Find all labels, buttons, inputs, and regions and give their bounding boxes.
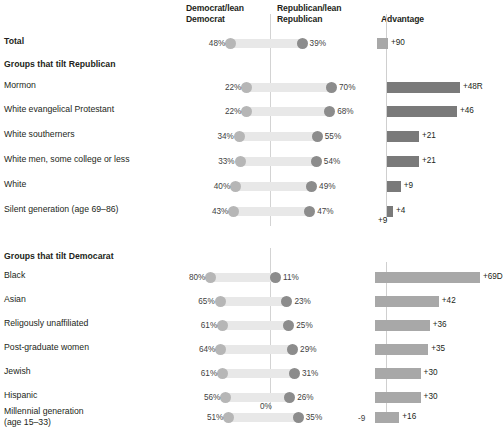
advantage-value-label: +48R xyxy=(463,82,483,91)
value-label-republican: 25% xyxy=(296,321,312,330)
dumbbell-track xyxy=(222,321,286,330)
dumbbell-dot-republican xyxy=(289,368,300,379)
value-label-democrat: 80% xyxy=(179,273,205,282)
advantage-value-label: +46 xyxy=(460,106,474,115)
dumbbell-zero-axis-label: 0% xyxy=(260,402,272,411)
dumbbell-track xyxy=(235,182,309,191)
dumbbell-dot-republican xyxy=(306,181,317,192)
advantage-bar xyxy=(375,296,439,307)
value-label-republican: 54% xyxy=(324,157,340,166)
value-label-democrat: 22% xyxy=(215,107,241,116)
value-label-democrat: 65% xyxy=(189,297,215,306)
dumbbell-track xyxy=(233,207,307,216)
advantage-bar xyxy=(375,392,421,403)
advantage-bar xyxy=(375,344,428,355)
dumbbell-row: 43%47% xyxy=(0,206,477,217)
dumbbell-dot-democrat xyxy=(234,131,245,142)
advantage-bar xyxy=(375,412,399,423)
value-label-republican: 23% xyxy=(294,297,310,306)
column-header-advantage: Advantage xyxy=(381,14,461,25)
section-heading-democrat: Groups that tilt Democarat xyxy=(4,251,114,261)
value-label-democrat: 56% xyxy=(194,393,220,402)
value-label-democrat: 43% xyxy=(202,207,228,216)
dumbbell-dot-republican xyxy=(312,131,323,142)
value-label-republican: 11% xyxy=(283,273,299,282)
value-label-republican: 47% xyxy=(317,207,333,216)
advantage-value-label: +21 xyxy=(422,131,436,140)
advantage-value-label: +69D xyxy=(483,272,503,281)
dumbbell-track xyxy=(230,39,299,48)
column-header-republican: Republican/lean Republican xyxy=(277,3,372,24)
advantage-value-label: +21 xyxy=(422,156,436,165)
value-label-republican: 31% xyxy=(302,369,318,378)
advantage-value-label: +35 xyxy=(431,344,445,353)
value-label-democrat: 61% xyxy=(191,321,217,330)
dumbbell-dot-republican xyxy=(281,296,292,307)
value-label-democrat: 33% xyxy=(209,157,235,166)
dumbbell-dot-democrat xyxy=(215,296,226,307)
value-label-republican: 70% xyxy=(339,83,355,92)
dumbbell-dot-republican xyxy=(283,320,294,331)
dumbbell-track xyxy=(222,369,292,378)
dumbbell-dot-republican xyxy=(311,156,322,167)
dumbbell-dot-republican xyxy=(324,106,335,117)
advantage-bar xyxy=(375,272,480,283)
dumbbell-dot-republican xyxy=(304,206,315,217)
dumbbell-dot-republican xyxy=(326,82,337,93)
dumbbell-track xyxy=(225,393,287,402)
value-label-republican: 39% xyxy=(310,39,326,48)
dumbbell-dot-democrat xyxy=(235,156,246,167)
advantage-value-label: +30 xyxy=(424,392,438,401)
dumbbell-track xyxy=(220,297,285,306)
dumbbell-track xyxy=(220,345,290,354)
advantage-value-label: +30 xyxy=(424,368,438,377)
dumbbell-dot-republican xyxy=(287,344,298,355)
advantage-bar xyxy=(387,106,457,117)
value-label-democrat: 48% xyxy=(199,39,225,48)
advantage-bar xyxy=(387,181,401,192)
advantage-bar xyxy=(377,38,388,49)
dumbbell-track xyxy=(228,413,295,422)
advantage-value-label: +9 xyxy=(404,181,413,190)
advantage-bar xyxy=(387,82,460,93)
value-label-democrat: 64% xyxy=(189,345,215,354)
advantage-bar xyxy=(387,156,419,167)
value-label-republican: 49% xyxy=(319,182,335,191)
value-label-republican: 35% xyxy=(306,413,322,422)
advantage-value-label: +36 xyxy=(433,320,447,329)
value-label-democrat: 51% xyxy=(197,413,223,422)
advantage-value-label: +90 xyxy=(391,38,405,47)
section-heading-republican: Groups that tilt Republican xyxy=(4,59,116,69)
advantage-bar xyxy=(387,131,419,142)
column-header-democrat: Democrat/lean Democrat xyxy=(186,3,276,24)
value-label-republican: 55% xyxy=(325,132,341,141)
value-label-democrat: 22% xyxy=(215,83,241,92)
dumbbell-track xyxy=(246,107,327,116)
dumbbell-dot-republican xyxy=(270,272,281,283)
advantage-value-label: +42 xyxy=(442,296,456,305)
advantage-bar xyxy=(375,320,430,331)
advantage-value-label: +16 xyxy=(402,412,416,421)
value-label-republican: 68% xyxy=(337,107,353,116)
dumbbell-track xyxy=(239,132,315,141)
dumbbell-dot-republican xyxy=(284,392,295,403)
value-label-democrat: 40% xyxy=(204,182,230,191)
advantage-bar xyxy=(375,368,421,379)
dumbbell-dot-republican xyxy=(297,38,308,49)
value-label-democrat: 61% xyxy=(191,369,217,378)
dumbbell-track xyxy=(210,273,273,282)
dumbbell-track xyxy=(246,83,329,92)
advantage-value-label: +4 xyxy=(396,206,405,215)
value-label-republican: 29% xyxy=(300,345,316,354)
advantage-bar xyxy=(387,206,393,217)
advantage-stray-label: +9 xyxy=(378,216,387,225)
dumbbell-track xyxy=(240,157,314,166)
value-label-democrat: 34% xyxy=(208,132,234,141)
dumbbell-dot-republican xyxy=(293,412,304,423)
dumbbell-row: 48%39% xyxy=(0,38,477,49)
value-label-republican: 26% xyxy=(297,393,313,402)
